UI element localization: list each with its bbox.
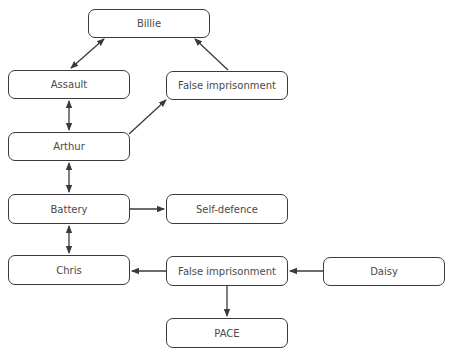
edges-layer xyxy=(0,0,450,352)
node-arthur: Arthur xyxy=(8,132,130,161)
node-assault: Assault xyxy=(8,70,130,99)
edge-arthur-false-imprisonment xyxy=(129,100,166,134)
node-pace: PACE xyxy=(166,318,288,348)
edge-assault-billie xyxy=(71,39,104,68)
edge-false-imprisonment-billie xyxy=(195,39,228,70)
node-battery: Battery xyxy=(8,194,130,224)
node-self-defence: Self-defence xyxy=(166,194,288,224)
node-false-imprisonment-bottom: False imprisonment xyxy=(166,256,288,286)
node-daisy: Daisy xyxy=(323,257,445,286)
node-billie: Billie xyxy=(88,9,210,38)
node-chris: Chris xyxy=(8,255,130,285)
node-false-imprisonment-top: False imprisonment xyxy=(166,71,288,100)
